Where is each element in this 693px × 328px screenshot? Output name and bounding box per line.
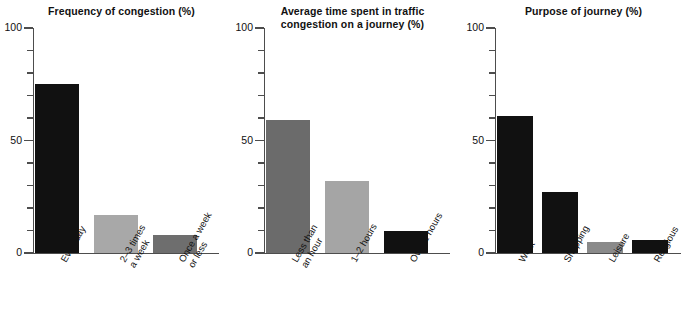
bar bbox=[497, 116, 533, 253]
chart-panel-frequency-of-congestion: Frequency of congestion (%) 050100 Every… bbox=[0, 0, 231, 328]
chart-panel-purpose-of-journey: Purpose of journey (%) 050100 WorkShoppi… bbox=[462, 0, 693, 328]
x-axis-labels: WorkShoppingLeisureReligious bbox=[495, 253, 681, 328]
chart-title: Frequency of congestion (%) bbox=[18, 5, 225, 18]
y-tick-major bbox=[24, 27, 33, 28]
bar-group bbox=[495, 28, 681, 253]
y-tick-label: 0 bbox=[462, 247, 484, 257]
y-tick-label: 100 bbox=[462, 22, 484, 32]
y-tick-major bbox=[24, 140, 33, 141]
x-axis-labels: Less thanan hour1–2 hoursOver 2 hours bbox=[264, 253, 450, 328]
chart-title-line: Frequency of congestion (%) bbox=[18, 5, 225, 18]
bar-chart-figure: Frequency of congestion (%) 050100 Every… bbox=[0, 0, 693, 328]
bar-group bbox=[33, 28, 219, 253]
chart-title: Purpose of journey (%) bbox=[480, 5, 687, 18]
chart-title-line: Purpose of journey (%) bbox=[480, 5, 687, 18]
y-tick-label: 0 bbox=[231, 247, 253, 257]
chart-panel-average-time-spent: Average time spent in trafficcongestion … bbox=[231, 0, 462, 328]
y-tick-major bbox=[486, 252, 495, 253]
y-tick-label: 100 bbox=[231, 22, 253, 32]
y-tick-label: 50 bbox=[0, 135, 22, 145]
y-tick-label: 100 bbox=[0, 22, 22, 32]
y-tick-label: 50 bbox=[462, 135, 484, 145]
y-tick-major bbox=[24, 252, 33, 253]
bar bbox=[35, 84, 79, 253]
chart-title-line: Average time spent in traffic bbox=[249, 5, 456, 18]
bar-group bbox=[264, 28, 450, 253]
y-tick-label: 50 bbox=[231, 135, 253, 145]
y-tick-major bbox=[486, 27, 495, 28]
y-tick-major bbox=[255, 27, 264, 28]
y-tick-major bbox=[255, 252, 264, 253]
y-tick-label: 0 bbox=[0, 247, 22, 257]
y-tick-major bbox=[486, 140, 495, 141]
y-tick-major bbox=[255, 140, 264, 141]
x-axis-labels: Everyday2–3 timesa weekOnce a weekor les… bbox=[33, 253, 219, 328]
